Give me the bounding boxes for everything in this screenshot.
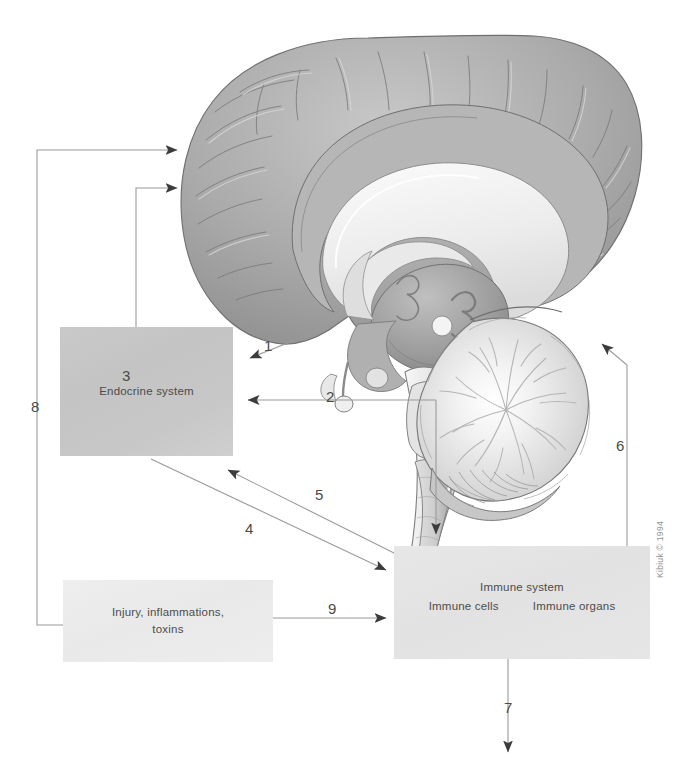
connector-label-2: 2 (326, 389, 334, 404)
connector-label-4: 4 (245, 521, 253, 536)
injury-inflammations-toxins-label: Injury, inflammations, toxins (112, 604, 224, 637)
endocrine-system-label: Endocrine system (99, 383, 194, 400)
connector-1 (250, 331, 318, 358)
immune-cells-label: Immune cells (429, 598, 499, 615)
immune-organs-label: Immune organs (533, 598, 616, 615)
immune-system-box: Immune system Immune cells Immune organs (394, 546, 650, 659)
connector-label-1: 1 (264, 338, 272, 353)
connector-label-5: 5 (315, 487, 323, 502)
connector-label-6: 6 (616, 438, 624, 453)
connector-3 (136, 188, 177, 327)
immune-system-labels: Immune system Immune cells Immune organs (394, 579, 650, 614)
connector-label-9: 9 (328, 601, 336, 616)
connector-label-8: 8 (31, 399, 39, 414)
injury-inflammations-toxins-box: Injury, inflammations, toxins (63, 580, 273, 662)
connector-5 (228, 470, 400, 556)
immune-system-subitems: Immune cells Immune organs (394, 598, 650, 615)
connector-label-3: 3 (122, 368, 130, 383)
artist-credit: Kibiuk © 1994 (655, 521, 665, 578)
neuroimmune-diagram: Endocrine system Injury, inflammations, … (0, 0, 696, 783)
immune-system-title: Immune system (394, 579, 650, 596)
connector-4 (151, 459, 386, 570)
connector-label-7: 7 (504, 700, 512, 715)
endocrine-system-box: Endocrine system (60, 327, 233, 456)
